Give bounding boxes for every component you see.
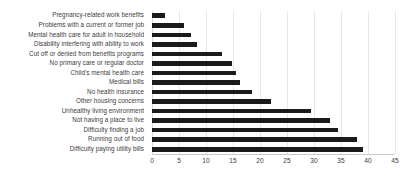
bar [152, 71, 236, 76]
bar-row [152, 135, 395, 145]
bar [152, 61, 232, 66]
bar-row [152, 30, 395, 40]
category-axis-labels: Pregnancy-related work benefitsProblems … [0, 11, 148, 154]
category-label: Disability interfering with ability to w… [0, 40, 148, 50]
x-axis-tick-labels: 051015202530354045 [152, 157, 395, 171]
category-label: No primary care or regular doctor [0, 59, 148, 69]
category-label: Mental health care for adult in househol… [0, 30, 148, 40]
bar-row [152, 49, 395, 59]
bar-row [152, 68, 395, 78]
bar-row [152, 125, 395, 135]
bar [152, 13, 165, 18]
bar-row [152, 78, 395, 88]
category-label: Child's mental health care [0, 68, 148, 78]
plot-area [152, 11, 395, 154]
bar-row [152, 21, 395, 31]
category-label: Difficulty finding a job [0, 125, 148, 135]
category-label: Problems with a current or former job [0, 21, 148, 31]
horizontal-bar-chart: Pregnancy-related work benefitsProblems … [0, 0, 411, 183]
bar [152, 42, 197, 47]
bar [152, 80, 240, 85]
x-tick-label: 45 [391, 157, 398, 164]
bar-row [152, 116, 395, 126]
x-tick-label: 30 [310, 157, 317, 164]
bar [152, 99, 271, 104]
bar [152, 118, 330, 123]
category-label: No health insurance [0, 87, 148, 97]
category-label: Cut off or denied from benefits programs [0, 49, 148, 59]
category-label: Not having a place to live [0, 116, 148, 126]
bar [152, 23, 184, 28]
bar-row [152, 87, 395, 97]
gridline [395, 11, 396, 154]
bar [152, 109, 311, 114]
category-label: Pregnancy-related work benefits [0, 11, 148, 21]
bar-row [152, 40, 395, 50]
bar [152, 147, 363, 152]
x-tick-label: 20 [256, 157, 263, 164]
category-label: Other housing concerns [0, 97, 148, 107]
category-label: Difficulty paying utility bills [0, 144, 148, 154]
bar-row [152, 106, 395, 116]
x-tick-label: 5 [177, 157, 181, 164]
x-tick-label: 15 [229, 157, 236, 164]
category-label: Running out of food [0, 135, 148, 145]
x-tick-label: 25 [283, 157, 290, 164]
bar-row [152, 144, 395, 154]
bar [152, 90, 252, 95]
bar [152, 33, 191, 38]
x-tick-label: 0 [150, 157, 154, 164]
x-tick-label: 35 [337, 157, 344, 164]
x-tick-label: 10 [202, 157, 209, 164]
bar [152, 52, 222, 57]
x-tick-label: 40 [364, 157, 371, 164]
category-label: Medical bills [0, 78, 148, 88]
bar [152, 137, 357, 142]
bar-series [152, 11, 395, 154]
bar-row [152, 11, 395, 21]
category-label: Unhealthy living environment [0, 106, 148, 116]
x-axis-line [152, 154, 395, 155]
bar [152, 128, 338, 133]
bar-row [152, 97, 395, 107]
bar-row [152, 59, 395, 69]
